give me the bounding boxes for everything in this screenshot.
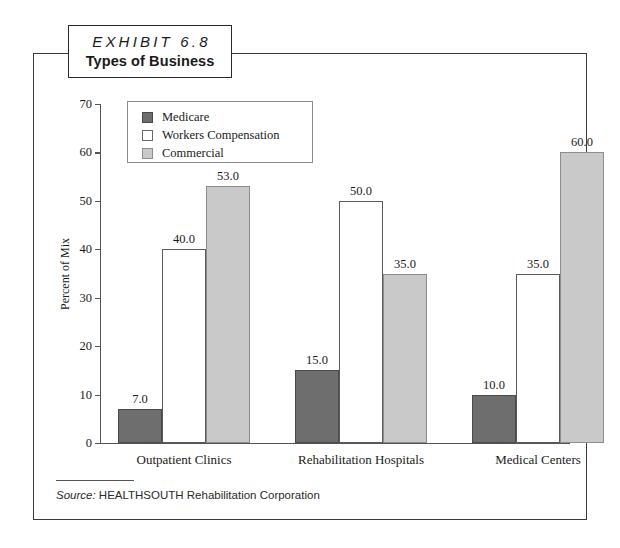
source-rule (56, 480, 134, 481)
exhibit-title-box: EXHIBIT 6.8 Types of Business (68, 25, 232, 78)
y-tick (95, 395, 100, 396)
bar-medicare[interactable]: 15.0 (295, 370, 339, 443)
category-label: Outpatient Clinics (137, 452, 232, 468)
y-tick-label: 70 (80, 97, 93, 112)
bar-value-label: 15.0 (306, 353, 328, 368)
bar-value-label: 10.0 (483, 378, 505, 393)
y-tick (95, 346, 100, 347)
source-note: Source: HEALTHSOUTH Rehabilitation Corpo… (56, 489, 320, 501)
chart-legend: MedicareWorkers CompensationCommercial (127, 101, 313, 163)
bar-group: 10.035.060.0Medical Centers (472, 104, 604, 443)
bar-workers[interactable]: 50.0 (339, 201, 383, 443)
category-label: Rehabilitation Hospitals (298, 452, 424, 468)
y-tick (95, 443, 100, 444)
legend-label: Workers Compensation (162, 128, 279, 143)
bar-medicare[interactable]: 10.0 (472, 395, 516, 443)
bar-commercial[interactable]: 60.0 (560, 152, 604, 443)
bar-value-label: 35.0 (527, 257, 549, 272)
y-tick (95, 152, 100, 153)
legend-label: Medicare (162, 110, 209, 125)
exhibit-number-label: EXHIBIT 6.8 (89, 34, 211, 49)
bar-value-label: 53.0 (217, 169, 239, 184)
source-text: HEALTHSOUTH Rehabilitation Corporation (99, 489, 320, 501)
y-tick-label: 10 (80, 387, 93, 402)
y-tick-label: 30 (80, 290, 93, 305)
y-axis-line (100, 104, 101, 443)
legend-item[interactable]: Workers Compensation (142, 127, 312, 144)
y-tick-label: 20 (80, 339, 93, 354)
source-prefix: Source: (56, 489, 96, 501)
bar-medicare[interactable]: 7.0 (118, 409, 162, 443)
y-tick-label: 0 (86, 436, 92, 451)
y-tick-label: 40 (80, 242, 93, 257)
bar-value-label: 50.0 (350, 184, 372, 199)
legend-item[interactable]: Medicare (142, 109, 312, 126)
bar-commercial[interactable]: 35.0 (383, 274, 427, 444)
bar-value-label: 40.0 (173, 232, 195, 247)
bar-group: 15.050.035.0Rehabilitation Hospitals (295, 104, 427, 443)
bar-commercial[interactable]: 53.0 (206, 186, 250, 443)
legend-item[interactable]: Commercial (142, 145, 312, 162)
category-label: Medical Centers (495, 452, 581, 468)
y-tick-label: 60 (80, 145, 93, 160)
y-tick (95, 201, 100, 202)
bar-workers[interactable]: 35.0 (516, 274, 560, 444)
y-tick (95, 104, 100, 105)
y-tick (95, 249, 100, 250)
exhibit-title-text: Types of Business (86, 54, 215, 69)
legend-swatch-commercial (142, 148, 153, 159)
bar-value-label: 7.0 (132, 392, 148, 407)
y-tick-label: 50 (80, 193, 93, 208)
y-tick (95, 298, 100, 299)
legend-label: Commercial (162, 146, 224, 161)
y-axis-title: Percent of Mix (58, 238, 73, 310)
bar-value-label: 35.0 (394, 257, 416, 272)
legend-swatch-workers (142, 130, 153, 141)
legend-swatch-medicare (142, 112, 153, 123)
x-axis-line (100, 443, 570, 444)
bar-value-label: 60.0 (571, 135, 593, 150)
bar-workers[interactable]: 40.0 (162, 249, 206, 443)
